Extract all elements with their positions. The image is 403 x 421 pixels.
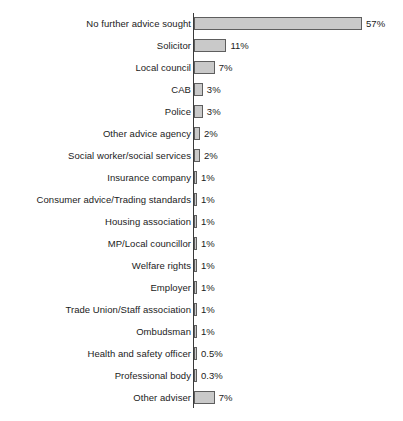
value-label: 1%	[201, 259, 215, 272]
category-label: Employer	[150, 277, 191, 299]
bar-row: Employer1%	[0, 277, 403, 299]
bar-row: Housing association1%	[0, 211, 403, 233]
bar-row: Local council7%	[0, 57, 403, 79]
value-label: 7%	[219, 61, 233, 74]
bar	[194, 303, 197, 316]
value-label: 1%	[201, 215, 215, 228]
category-label: Welfare rights	[132, 255, 191, 277]
bar	[194, 171, 197, 184]
category-label: Social worker/social services	[68, 145, 191, 167]
bar	[194, 237, 197, 250]
bar-chart: No further advice sought57%Solicitor11%L…	[0, 0, 403, 421]
bar-row: CAB3%	[0, 79, 403, 101]
value-label: 1%	[201, 171, 215, 184]
value-label: 0.3%	[201, 369, 223, 382]
category-label: Health and safety officer	[87, 343, 191, 365]
value-label: 1%	[201, 237, 215, 250]
bar	[194, 127, 200, 140]
bar-row: Trade Union/Staff association1%	[0, 299, 403, 321]
bar	[194, 325, 197, 338]
value-label: 3%	[207, 83, 221, 96]
bar-row: Welfare rights1%	[0, 255, 403, 277]
category-label: Solicitor	[157, 35, 191, 57]
value-label: 1%	[201, 303, 215, 316]
bar-row: No further advice sought57%	[0, 13, 403, 35]
category-label: Insurance company	[107, 167, 191, 189]
value-label: 7%	[219, 391, 233, 404]
category-label: Police	[165, 101, 191, 123]
bar	[194, 193, 197, 206]
value-label: 57%	[366, 17, 385, 30]
bar	[194, 215, 197, 228]
bar	[194, 39, 226, 52]
bar	[194, 259, 197, 272]
bar-row: Solicitor11%	[0, 35, 403, 57]
value-label: 1%	[201, 281, 215, 294]
bar	[194, 149, 200, 162]
bar-row: Consumer advice/Trading standards1%	[0, 189, 403, 211]
value-label: 1%	[201, 325, 215, 338]
bar	[194, 17, 362, 30]
category-label: Other adviser	[133, 387, 191, 409]
bar	[194, 281, 197, 294]
category-label: Local council	[135, 57, 191, 79]
bar	[194, 105, 203, 118]
bar-row: MP/Local councillor1%	[0, 233, 403, 255]
bar	[194, 369, 197, 382]
bar-row: Social worker/social services2%	[0, 145, 403, 167]
value-label: 2%	[204, 149, 218, 162]
bar	[194, 391, 215, 404]
category-label: Professional body	[115, 365, 191, 387]
bar	[194, 61, 215, 74]
bar-row: Police3%	[0, 101, 403, 123]
bar-row: Other advice agency2%	[0, 123, 403, 145]
bar	[194, 347, 197, 360]
category-label: Ombudsman	[136, 321, 191, 343]
category-label: MP/Local councillor	[108, 233, 191, 255]
bar-row: Health and safety officer0.5%	[0, 343, 403, 365]
category-label: Consumer advice/Trading standards	[37, 189, 191, 211]
category-label: Housing association	[105, 211, 191, 233]
category-label: No further advice sought	[86, 13, 191, 35]
value-label: 0.5%	[201, 347, 223, 360]
value-label: 1%	[201, 193, 215, 206]
plot-area: No further advice sought57%Solicitor11%L…	[0, 0, 403, 421]
bar-row: Ombudsman1%	[0, 321, 403, 343]
category-label: Trade Union/Staff association	[65, 299, 191, 321]
category-label: CAB	[171, 79, 191, 101]
category-label: Other advice agency	[103, 123, 191, 145]
bar-row: Other adviser7%	[0, 387, 403, 409]
bar	[194, 83, 203, 96]
bar-row: Insurance company1%	[0, 167, 403, 189]
value-label: 2%	[204, 127, 218, 140]
value-label: 3%	[207, 105, 221, 118]
value-label: 11%	[230, 39, 248, 52]
bar-row: Professional body0.3%	[0, 365, 403, 387]
